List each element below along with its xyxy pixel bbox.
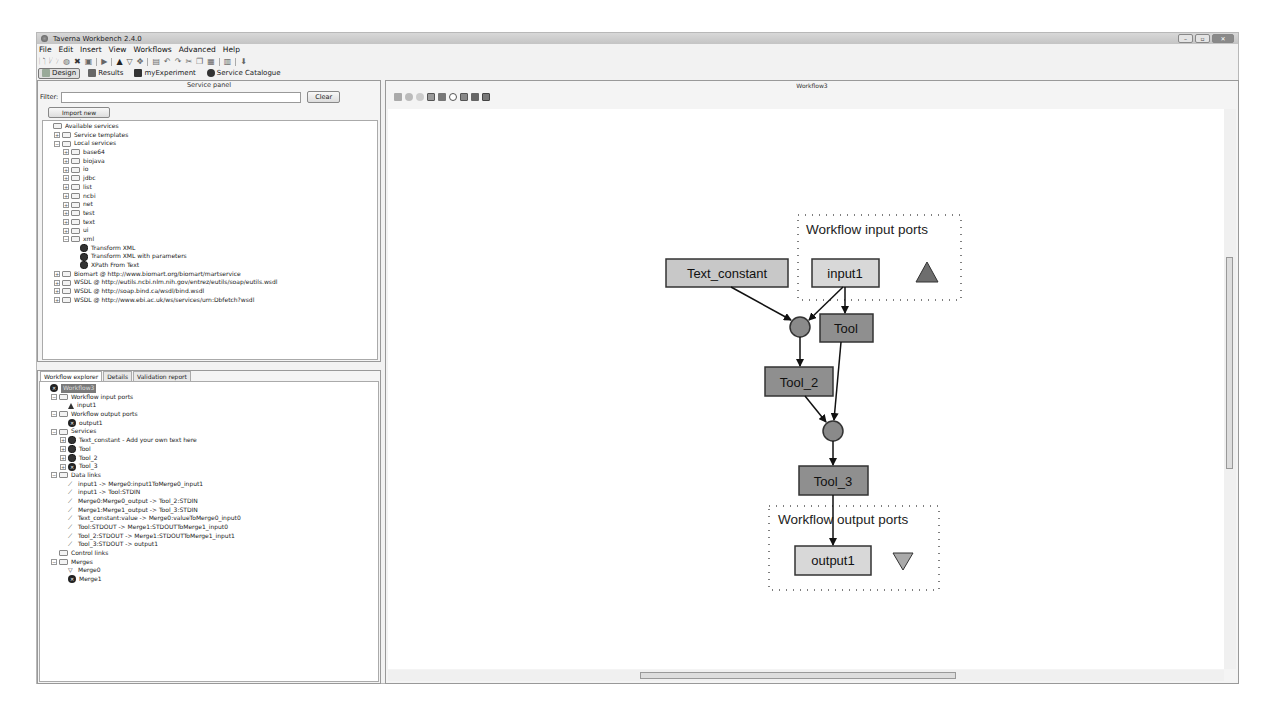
menu-file[interactable]: File — [39, 45, 52, 55]
tab-details[interactable]: Details — [103, 371, 132, 381]
collapse-icon[interactable]: − — [51, 411, 57, 417]
expand-icon[interactable]: + — [63, 167, 69, 173]
collapse-icon[interactable]: − — [63, 236, 69, 242]
perspective-design[interactable]: Design — [38, 68, 80, 79]
close-button[interactable]: ✕ — [1212, 34, 1234, 43]
edit-icon[interactable]: ▤ — [152, 57, 160, 66]
menu-advanced[interactable]: Advanced — [179, 45, 216, 55]
collapse-icon[interactable]: − — [54, 141, 60, 147]
menu-edit[interactable]: Edit — [59, 45, 74, 55]
service-tree[interactable]: Available services+Service templates−Loc… — [42, 120, 378, 360]
perspective-myexperiment[interactable]: myExperiment — [131, 68, 198, 79]
workflow-diagram-canvas[interactable]: Workflow input ports Text_constant input… — [388, 109, 1224, 669]
tree-item[interactable]: ⟋Tool:STDOUT -> Merge1:STDOUTToMerge1_in… — [42, 523, 376, 532]
tree-item[interactable]: −Workflow output ports — [42, 410, 376, 419]
zoom-in-icon[interactable] — [405, 93, 413, 101]
tree-item[interactable]: −Services — [42, 427, 376, 436]
expand-icon[interactable]: + — [54, 288, 60, 294]
add-input-icon[interactable]: ▲ — [116, 57, 122, 66]
collapse-icon[interactable]: − — [51, 559, 57, 565]
expand-icon[interactable]: + — [54, 297, 60, 303]
tree-item[interactable]: −Local services — [45, 139, 375, 148]
vertical-align-icon[interactable] — [460, 93, 468, 101]
tree-item[interactable]: +Text_constant - Add your own text here — [42, 436, 376, 445]
expand-icon[interactable]: + — [63, 175, 69, 181]
perspective-service-catalogue[interactable]: Service Catalogue — [204, 68, 284, 79]
redo-icon[interactable]: ↷ — [175, 57, 182, 66]
tree-item[interactable]: +list — [45, 183, 375, 192]
expand-icon[interactable]: + — [63, 184, 69, 190]
tree-item[interactable]: −Data links — [42, 471, 376, 480]
zoom-out-icon[interactable] — [416, 93, 424, 101]
blobs-icon[interactable] — [449, 93, 457, 101]
close-workflow-icon[interactable]: ✖ — [74, 57, 81, 66]
tree-item[interactable]: Transform XML with parameters — [45, 252, 375, 261]
tree-item[interactable]: +ui — [45, 226, 375, 235]
paste-icon[interactable]: ▦ — [207, 57, 215, 66]
tree-item[interactable]: ✕output1 — [42, 419, 376, 428]
tree-item[interactable]: −Workflow input ports — [42, 393, 376, 402]
tree-item[interactable]: ✕Merge1 — [42, 575, 376, 584]
tree-item[interactable]: +jdbc — [45, 174, 375, 183]
expand-icon[interactable]: + — [63, 149, 69, 155]
undo-icon[interactable]: ↶ — [164, 57, 171, 66]
tree-item[interactable]: +text — [45, 218, 375, 227]
expand-icon[interactable]: + — [63, 193, 69, 199]
tree-item[interactable]: +ncbi — [45, 192, 375, 201]
horizontal-scrollbar[interactable] — [388, 670, 1224, 681]
expand-icon[interactable]: + — [63, 228, 69, 234]
tree-item[interactable]: +✕Tool_3 — [42, 462, 376, 471]
tree-item[interactable]: +Service templates — [45, 131, 375, 140]
add-output-icon[interactable]: ▽ — [127, 57, 133, 66]
menu-help[interactable]: Help — [223, 45, 240, 55]
save-workflow-icon[interactable]: ▣ — [85, 57, 93, 66]
tree-item[interactable]: ✕Workflow3 — [42, 384, 376, 393]
run-icon[interactable]: ▶ — [101, 57, 107, 66]
collapse-icon[interactable]: − — [51, 472, 57, 478]
tree-item[interactable]: +base64 — [45, 148, 375, 157]
tree-item[interactable]: +biojava — [45, 157, 375, 166]
tree-item[interactable]: ⟋input1 -> Merge0:input1ToMerge0_input1 — [42, 480, 376, 489]
expand-icon[interactable]: + — [60, 464, 66, 470]
copy-icon[interactable]: ❐ — [196, 57, 203, 66]
tree-item[interactable]: ⟋Text_constant:value -> Merge0:valueToMe… — [42, 514, 376, 523]
tree-item[interactable]: Control links — [42, 549, 376, 558]
expand-icon[interactable]: + — [54, 271, 60, 277]
link-text-constant-merge0[interactable] — [731, 287, 791, 320]
filter-input[interactable] — [61, 92, 301, 103]
expand-icon[interactable]: + — [63, 158, 69, 164]
vertical-scrollbar[interactable] — [1224, 109, 1236, 669]
perspective-results[interactable]: Results — [85, 68, 126, 79]
tree-item[interactable]: +Tool_2 — [42, 454, 376, 463]
menu-view[interactable]: View — [109, 45, 127, 55]
menu-insert[interactable]: Insert — [80, 45, 102, 55]
tab-workflow-explorer[interactable]: Workflow explorer — [40, 371, 102, 381]
tree-item[interactable]: XPath From Text — [45, 261, 375, 270]
cut-icon[interactable]: ✂ — [185, 57, 192, 66]
collapse-icon[interactable]: − — [51, 394, 57, 400]
expand-icon[interactable]: + — [54, 132, 60, 138]
expand-icon[interactable]: + — [63, 210, 69, 216]
layout-no-ports-icon[interactable] — [427, 93, 435, 101]
open-url-icon[interactable]: ◍ — [63, 57, 70, 66]
expand-icon[interactable]: + — [60, 446, 66, 452]
horizontal-scroll-thumb[interactable] — [640, 672, 956, 679]
tree-item[interactable]: +WSDL @ http://www.ebi.ac.uk/ws/services… — [45, 296, 375, 305]
tree-item[interactable]: +io — [45, 165, 375, 174]
tree-item[interactable]: +WSDL @ http://eutils.ncbi.nlm.nih.gov/e… — [45, 278, 375, 287]
tree-item[interactable]: input1 — [42, 401, 376, 410]
layout-all-ports-icon[interactable] — [438, 93, 446, 101]
tree-item[interactable]: ⟋Merge0:Merge0_output -> Tool_2:STDIN — [42, 497, 376, 506]
expand-icon[interactable]: + — [63, 219, 69, 225]
tree-item[interactable]: ⟋input1 -> Tool:STDIN — [42, 488, 376, 497]
menu-workflows[interactable]: Workflows — [133, 45, 171, 55]
tree-item[interactable]: +Tool — [42, 445, 376, 454]
expand-icon[interactable]: + — [63, 202, 69, 208]
tree-item[interactable]: +test — [45, 209, 375, 218]
import-new-services-button[interactable]: Import new services — [48, 107, 110, 118]
tree-item[interactable]: +Biomart @ http://www.biomart.org/biomar… — [45, 270, 375, 279]
delete-icon[interactable]: ▥ — [224, 57, 232, 66]
tree-item[interactable]: +net — [45, 200, 375, 209]
tree-item[interactable]: +WSDL @ http://soap.bind.ca/wsdl/bind.ws… — [45, 287, 375, 296]
tree-item[interactable]: Available services — [45, 122, 375, 131]
